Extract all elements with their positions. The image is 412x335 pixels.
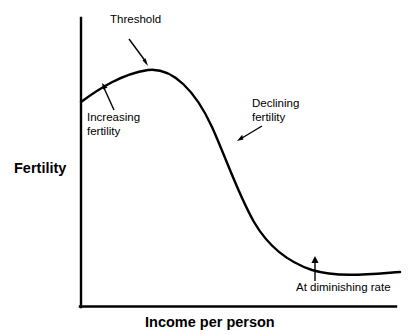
annotation-diminishing-rate: At diminishing rate — [296, 281, 391, 295]
annotation-threshold: Threshold — [110, 13, 161, 27]
diminishing-rate-arrow-icon — [311, 256, 318, 281]
y-axis-title: Fertility — [14, 160, 66, 176]
annotation-increasing-fertility: Increasing fertility — [87, 111, 140, 138]
annotation-declining-fertility: Declining fertility — [252, 97, 299, 124]
declining-fertility-arrow-icon — [237, 126, 262, 141]
x-axis-title: Income per person — [145, 314, 275, 330]
fertility-income-chart: Threshold Increasing fertility Declining… — [0, 0, 412, 335]
threshold-arrow-icon — [129, 39, 148, 66]
fertility-curve — [81, 70, 400, 275]
increasing-fertility-arrow-icon — [102, 83, 114, 110]
